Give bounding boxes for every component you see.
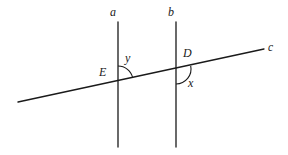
geometry-canvas — [0, 0, 288, 155]
label-point-e: E — [99, 66, 106, 78]
line-c-transversal — [18, 49, 264, 102]
angle-arc-y — [118, 66, 133, 78]
geometry-figure: a b c E D y x — [0, 0, 288, 155]
label-point-d: D — [183, 47, 192, 59]
label-angle-y: y — [125, 52, 130, 64]
label-line-a: a — [110, 6, 116, 18]
label-angle-x: x — [188, 77, 193, 89]
label-line-c: c — [268, 42, 273, 54]
label-line-b: b — [168, 6, 174, 18]
